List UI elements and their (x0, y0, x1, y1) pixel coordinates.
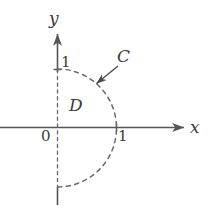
y-axis-label: y (49, 10, 59, 27)
curve-label-c: C (117, 48, 130, 65)
x-axis-tick-label-1: 1 (118, 129, 128, 144)
y-axis-tick-label-1: 1 (61, 55, 71, 70)
figure-canvas: y x C D 1 1 0 (0, 0, 210, 220)
origin-label-0: 0 (41, 129, 51, 144)
diagram-svg (0, 0, 210, 220)
region-label-d: D (69, 97, 83, 114)
x-axis-label: x (190, 119, 200, 136)
curve-label-pointer (97, 66, 119, 84)
